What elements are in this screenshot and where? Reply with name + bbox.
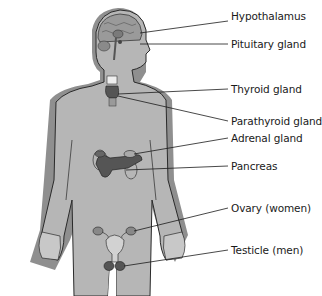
label-adrenal-gland: Adrenal gland (231, 132, 303, 144)
label-hypothalamus: Hypothalamus (231, 10, 306, 22)
label-ovary: Ovary (women) (231, 202, 311, 214)
label-testicle: Testicle (men) (231, 244, 303, 256)
label-thyroid-gland: Thyroid gland (231, 83, 302, 95)
label-pancreas: Pancreas (231, 160, 277, 172)
label-pituitary-gland: Pituitary gland (231, 38, 306, 50)
label-parathyroid-gland: Parathyroid gland (231, 115, 322, 127)
